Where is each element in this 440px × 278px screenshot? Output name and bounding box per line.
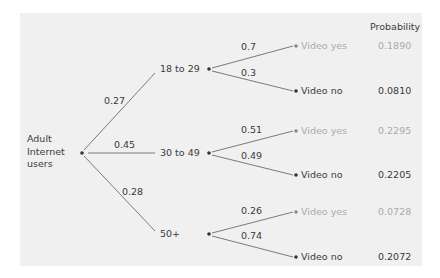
joint-prob-value: 0.2205 bbox=[378, 169, 411, 181]
joint-prob-value: 0.2295 bbox=[378, 125, 411, 137]
root-label-line: users bbox=[27, 158, 77, 171]
no-prob-50plus: 0.74 bbox=[241, 230, 262, 242]
yes-prob-18-29: 0.7 bbox=[241, 41, 256, 53]
age-group-50plus: 50+ bbox=[160, 228, 180, 240]
probability-header: Probability bbox=[370, 21, 420, 33]
leaf-video-yes: Video yes bbox=[301, 125, 347, 137]
no-prob-30-49: 0.49 bbox=[241, 150, 262, 162]
branch-prob-18-29: 0.27 bbox=[104, 95, 125, 107]
joint-prob-value: 0.2072 bbox=[378, 251, 411, 263]
branch-prob-50plus: 0.28 bbox=[122, 186, 143, 198]
root-label: Adult Internet users bbox=[27, 133, 77, 171]
root-label-line: Adult bbox=[27, 133, 77, 146]
leaf-video-yes: Video yes bbox=[301, 206, 347, 218]
age-group-18-29: 18 to 29 bbox=[160, 63, 200, 75]
leaf-video-no: Video no bbox=[301, 169, 342, 181]
branch-prob-30-49: 0.45 bbox=[114, 139, 135, 151]
yes-prob-50plus: 0.26 bbox=[241, 205, 262, 217]
yes-prob-30-49: 0.51 bbox=[241, 124, 262, 136]
root-node-dot bbox=[80, 151, 84, 155]
leaf-video-no: Video no bbox=[301, 251, 342, 263]
no-prob-18-29: 0.3 bbox=[241, 67, 256, 79]
root-label-line: Internet bbox=[27, 146, 77, 159]
leaf-video-no: Video no bbox=[301, 85, 342, 97]
joint-prob-value: 0.1890 bbox=[378, 40, 411, 52]
joint-prob-value: 0.0810 bbox=[378, 85, 411, 97]
joint-prob-value: 0.0728 bbox=[378, 206, 411, 218]
age-group-30-49: 30 to 49 bbox=[160, 147, 200, 159]
leaf-video-yes: Video yes bbox=[301, 40, 347, 52]
